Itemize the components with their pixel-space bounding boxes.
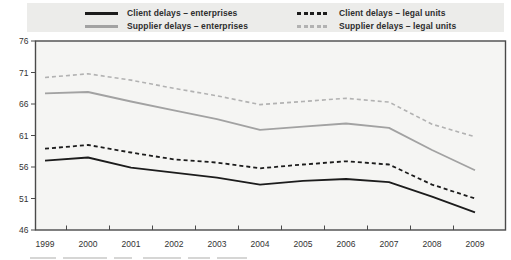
legend-label: Supplier delays – legal units <box>339 21 456 31</box>
legend-entry-supplier-enterprises: Supplier delays – enterprises <box>85 20 248 32</box>
y-axis-label: 76 <box>19 36 29 46</box>
solid-gray-line-swatch <box>85 25 118 28</box>
x-axis-label: 2007 <box>380 239 399 249</box>
chart-legend: Client delays – enterprises Supplier del… <box>27 3 504 32</box>
y-axis-label: 56 <box>19 162 29 172</box>
x-axis-label: 2009 <box>466 239 485 249</box>
x-axis-label: 2001 <box>122 239 141 249</box>
y-axis-label: 46 <box>19 225 29 235</box>
line-chart: 4651566166717619992000200120022003200420… <box>0 34 511 260</box>
legend-label: Supplier delays – enterprises <box>127 21 248 31</box>
legend-entry-client-enterprises: Client delays – enterprises <box>85 7 237 19</box>
legend-label: Client delays – enterprises <box>127 8 237 18</box>
dashed-gray-line-swatch <box>297 25 330 28</box>
x-axis-label: 2004 <box>251 239 270 249</box>
x-axis-label: 2006 <box>337 239 356 249</box>
y-axis-label: 51 <box>19 194 29 204</box>
x-axis-label: 2000 <box>79 239 98 249</box>
x-axis-label: 2003 <box>208 239 227 249</box>
x-axis-label: 1999 <box>36 239 55 249</box>
legend-entry-supplier-legal-units: Supplier delays – legal units <box>297 20 456 32</box>
x-axis-label: 2002 <box>165 239 184 249</box>
plot-frame <box>36 41 506 230</box>
y-axis-label: 61 <box>19 131 29 141</box>
solid-black-line-swatch <box>85 12 118 15</box>
y-axis-label: 71 <box>19 68 29 78</box>
x-axis-label: 2008 <box>423 239 442 249</box>
y-axis-label: 66 <box>19 99 29 109</box>
dashed-black-line-swatch <box>297 12 330 15</box>
legend-entry-client-legal-units: Client delays – legal units <box>297 7 446 19</box>
legend-label: Client delays – legal units <box>339 8 446 18</box>
x-axis-label: 2005 <box>294 239 313 249</box>
plot-area: 4651566166717619992000200120022003200420… <box>0 34 511 260</box>
figure: Client delays – enterprises Supplier del… <box>0 0 511 260</box>
